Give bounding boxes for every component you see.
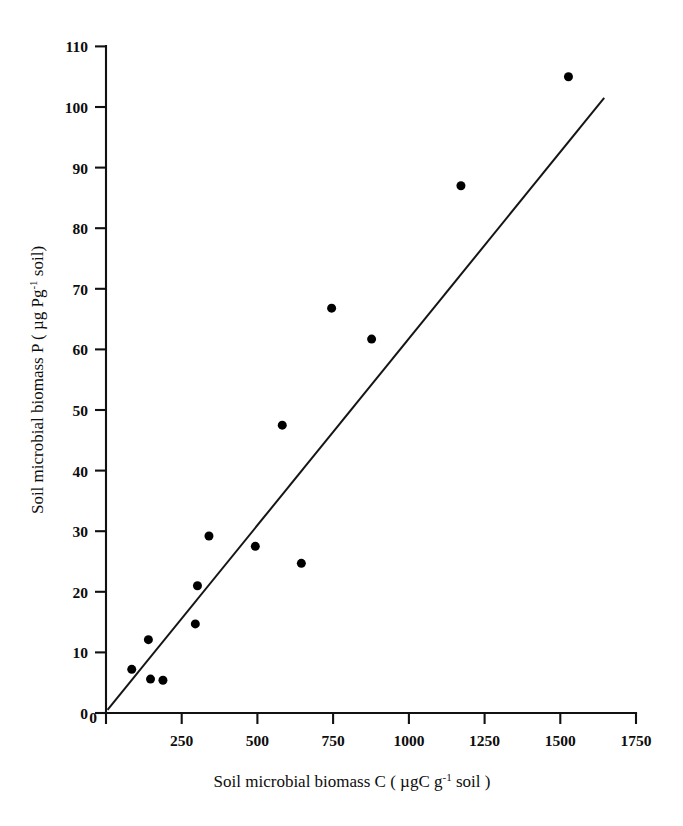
y-axis-title: Soil microbial biomass P ( µg Pg-1 soil) bbox=[27, 246, 47, 514]
data-point bbox=[193, 581, 202, 590]
x-axis-tick-labels: 0 250 500 750 1000 1250 1500 1750 bbox=[89, 709, 652, 749]
y-axis-title-unit: µg Pg bbox=[28, 289, 47, 330]
y-axis-title-superscript: -1 bbox=[27, 280, 39, 289]
y-tick-label: 0 bbox=[80, 705, 88, 722]
y-tick-label: 20 bbox=[73, 584, 89, 601]
y-axis-title-prefix: Soil microbial biomass P ( bbox=[28, 330, 47, 514]
data-point bbox=[204, 532, 213, 541]
scatter-plot: 0 10 20 30 40 50 60 70 80 90 100 110 0 bbox=[0, 0, 683, 826]
x-tick-label: 0 bbox=[89, 709, 97, 726]
data-point bbox=[146, 675, 155, 684]
data-point bbox=[564, 72, 573, 81]
x-tick-label: 250 bbox=[170, 732, 194, 749]
data-point bbox=[456, 181, 465, 190]
y-tick-label: 70 bbox=[73, 281, 89, 298]
regression-line bbox=[108, 98, 605, 710]
x-tick-label: 1750 bbox=[621, 732, 652, 749]
x-axis-title: Soil microbial biomass C ( µgC g-1 soil … bbox=[214, 771, 491, 791]
data-point bbox=[144, 635, 153, 644]
y-tick-label: 60 bbox=[73, 341, 89, 358]
y-tick-label: 10 bbox=[73, 644, 89, 661]
y-axis-title-suffix: soil) bbox=[28, 246, 47, 280]
data-point bbox=[158, 676, 167, 685]
x-axis-ticks bbox=[106, 713, 636, 724]
x-axis-title-prefix: Soil microbial biomass C ( bbox=[214, 772, 401, 791]
y-tick-label: 40 bbox=[73, 463, 89, 480]
data-point bbox=[367, 335, 376, 344]
x-tick-label: 1250 bbox=[469, 732, 500, 749]
y-tick-label: 30 bbox=[73, 523, 89, 540]
y-tick-label: 50 bbox=[73, 402, 89, 419]
data-point bbox=[297, 559, 306, 568]
data-point bbox=[251, 542, 260, 551]
x-axis-title-superscript: -1 bbox=[443, 771, 452, 783]
x-axis-title-unit: µgC g bbox=[400, 772, 443, 791]
data-point bbox=[278, 421, 287, 430]
x-tick-label: 500 bbox=[246, 732, 270, 749]
x-tick-label: 750 bbox=[321, 732, 345, 749]
figure-container: 0 10 20 30 40 50 60 70 80 90 100 110 0 bbox=[0, 0, 683, 826]
data-point bbox=[327, 304, 336, 313]
y-axis-tick-labels: 0 10 20 30 40 50 60 70 80 90 100 110 bbox=[65, 38, 89, 722]
x-tick-label: 1000 bbox=[393, 732, 424, 749]
x-axis-title-suffix: soil ) bbox=[452, 772, 491, 791]
y-tick-label: 80 bbox=[73, 220, 89, 237]
data-points-group bbox=[127, 72, 573, 685]
y-tick-label: 90 bbox=[73, 160, 89, 177]
data-point bbox=[191, 619, 200, 628]
y-tick-label: 100 bbox=[65, 99, 89, 116]
x-tick-label: 1500 bbox=[545, 732, 576, 749]
y-tick-label: 110 bbox=[66, 38, 89, 55]
y-axis-ticks bbox=[95, 46, 106, 713]
data-point bbox=[127, 665, 136, 674]
